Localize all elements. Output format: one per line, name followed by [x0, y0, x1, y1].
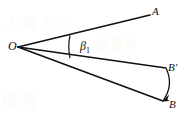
figure-canvas — [0, 0, 194, 115]
ray-ob-prime — [18, 47, 166, 68]
label-point-b: B — [169, 99, 176, 110]
geometry-figure: 上海 市政 测量学 图例 O A B' B β1 — [0, 0, 194, 115]
label-point-a: A — [152, 6, 159, 17]
angle-arc-beta1 — [69, 35, 70, 58]
ray-ob — [18, 47, 163, 101]
label-point-b-prime: B' — [168, 62, 177, 73]
angle-subscript: 1 — [86, 46, 90, 55]
label-vertex-o: O — [8, 40, 17, 52]
label-angle-beta1: β1 — [80, 40, 90, 55]
